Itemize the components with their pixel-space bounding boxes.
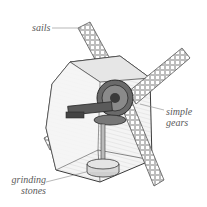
label-sails: sails	[32, 22, 50, 33]
label-sails-text: sails	[32, 22, 50, 33]
label-simple-gears-line1: simple	[166, 106, 192, 117]
label-grinding-stones-line2: stones	[4, 185, 46, 196]
drive-shaft	[101, 124, 105, 164]
label-simple-gears-line2: gears	[166, 117, 192, 128]
label-simple-gears: simple gears	[166, 106, 192, 128]
label-grinding-stones-line1: grinding	[4, 174, 46, 185]
label-grinding-stones: grinding stones	[4, 174, 46, 196]
grinding-stones	[87, 159, 119, 177]
